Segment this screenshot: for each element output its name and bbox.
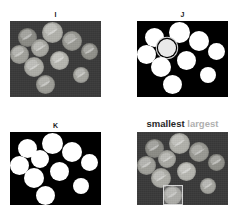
blob-object: [50, 162, 69, 181]
blob-object: [151, 57, 171, 77]
blob-object: [208, 43, 225, 60]
blob-object: [163, 75, 182, 94]
coin-object: [200, 178, 216, 194]
blob-object: [31, 150, 49, 168]
blob-object: [177, 51, 196, 70]
blob-object: [36, 186, 55, 205]
coin-object: [81, 43, 98, 60]
coin-object: [31, 39, 49, 57]
panel-label-j: J: [137, 11, 228, 19]
outlined-blob-object: [158, 39, 176, 57]
blob-object: [200, 67, 216, 83]
blob-object: [24, 168, 44, 188]
panel-canvas-k: [10, 132, 101, 205]
blob-object: [62, 142, 82, 162]
panel-caption-l: smallest largest: [137, 118, 228, 129]
panel-label-k: K: [10, 122, 101, 130]
panel-canvas-j: [137, 21, 228, 97]
coin-object: [177, 162, 196, 181]
coin-object: [36, 75, 55, 94]
coin-object: [189, 142, 209, 162]
coin-object: [158, 150, 176, 168]
blob-object: [81, 154, 98, 171]
coin-object: [73, 67, 89, 83]
coin-object: [50, 51, 69, 70]
panel-canvas-l: [137, 132, 228, 205]
panel-canvas-i: [10, 21, 101, 97]
caption-word-largest: largest: [187, 118, 218, 129]
caption-word-smallest: smallest: [147, 118, 185, 129]
coin-object: [208, 154, 225, 171]
coin-object: [62, 31, 82, 51]
blob-object: [189, 31, 209, 51]
panel-label-i: I: [10, 11, 101, 19]
blob-object: [73, 178, 89, 194]
smallest-bbox: [163, 185, 183, 205]
coin-object: [24, 57, 44, 77]
figure-panel-grid: IJKsmallest largest: [0, 0, 237, 205]
